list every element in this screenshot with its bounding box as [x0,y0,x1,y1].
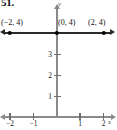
x-axis-arrow-left-icon [0,114,5,120]
y-tick-label: 2 [44,72,52,80]
y-tick-label: 1 [44,93,52,101]
y-tick-mark [54,54,61,55]
x-tick-label: 1 [78,120,82,128]
data-point [55,31,59,35]
plotted-line-arrow-right-icon [110,29,115,35]
problem-number: 51. [1,0,14,8]
y-tick-label: 3 [44,51,52,59]
data-point-label: (2, 4) [88,18,105,27]
x-tick-label: 2 [102,120,106,128]
x-tick-label: −1 [29,120,37,128]
data-point [101,31,105,35]
coordinate-plane-figure: 51. y x −2 −1 1 2 1 2 3 (−2, 4) (0, 4) (… [0,0,117,130]
x-axis-label: x [108,119,111,126]
y-tick-mark [54,96,61,97]
y-axis-label: y [58,1,61,8]
data-point-label: (−2, 4) [1,18,23,27]
data-point-label: (0, 4) [58,18,75,27]
data-point [8,31,12,35]
x-tick-label: −2 [6,120,14,128]
plotted-line-arrow-left-icon [0,29,5,35]
x-axis [2,116,114,118]
y-tick-mark [54,75,61,76]
x-axis-arrow-right-icon [111,114,116,120]
